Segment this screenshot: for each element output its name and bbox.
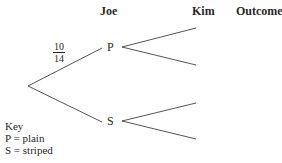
probability-root-to-P: 10 14 (53, 41, 65, 64)
key-line-plain: P = plain (5, 132, 53, 144)
node-P: P (107, 40, 114, 55)
branch-P-to-upper (122, 28, 196, 47)
fraction-numerator: 10 (53, 41, 65, 53)
branch-root-to-S (28, 86, 102, 122)
key-title: Key (5, 120, 53, 132)
branch-S-to-lower (122, 121, 196, 139)
key-line-striped: S = striped (5, 144, 53, 156)
branch-S-to-upper (122, 103, 196, 121)
branch-root-to-P (28, 48, 102, 86)
fraction-denominator: 14 (53, 53, 65, 64)
node-S: S (107, 114, 114, 129)
key-legend: Key P = plain S = striped (5, 120, 53, 156)
branch-P-to-lower (122, 47, 196, 65)
